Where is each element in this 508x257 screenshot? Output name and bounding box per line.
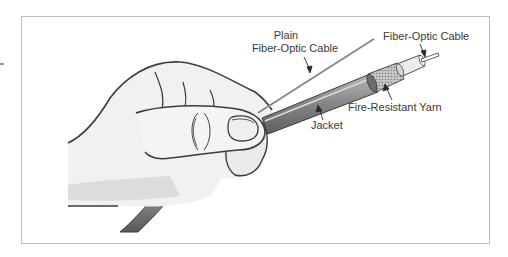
label-fiber-optic-cable: Fiber-Optic Cable [383,30,469,43]
hand-icon [0,0,272,207]
label-fire-resistant-yarn: Fire-Resistant Yarn [348,101,442,114]
label-plain-line1: Plain [256,29,316,42]
buffer-tube [395,54,427,77]
label-plain-line2: Fiber-Optic Cable [240,42,350,55]
label-jacket: Jacket [311,119,343,132]
